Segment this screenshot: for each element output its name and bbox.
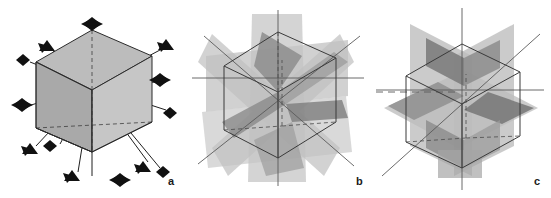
cube-solid xyxy=(36,30,152,152)
symbol-2-fold-left-upper xyxy=(16,54,30,66)
symbol-4-fold-top xyxy=(81,17,103,31)
symbol-3-fold-bottom-right xyxy=(134,161,151,174)
symbol-3-fold-lower-left xyxy=(21,143,38,156)
symbol-4-fold-bottom xyxy=(109,173,131,187)
axial-overlap-bottom-center xyxy=(438,150,482,178)
panel-label-a: a xyxy=(168,176,174,187)
panel-b-diagonal-mirror-planes xyxy=(182,0,372,198)
symbol-4-fold-left-face xyxy=(11,98,33,112)
symbol-2-fold-right-edge xyxy=(163,107,177,119)
panel-label-b: b xyxy=(356,176,363,187)
axial-mirror-planes xyxy=(384,24,538,178)
panel-c-axial-mirror-planes xyxy=(368,0,551,198)
symmetry-figure: a b c xyxy=(0,0,551,198)
panel-label-c: c xyxy=(534,176,540,187)
symbol-2-fold-inner-left xyxy=(43,140,57,152)
symbol-3-fold-bottom-left xyxy=(63,170,80,183)
panel-a-rotation-axes xyxy=(0,0,184,198)
